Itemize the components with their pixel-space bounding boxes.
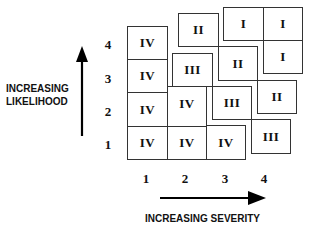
cell-s2-l2: IV [167,86,207,127]
y-tick-4: 4 [101,37,115,53]
x-tick-2: 2 [178,171,192,187]
cell-s1-l1: IV [127,126,168,160]
cell-s4-l4: I [263,7,303,41]
y-axis-label: INCREASING LIKELIHOOD [6,82,69,108]
cell-s1-l2: IV [127,92,168,127]
y-tick-2: 2 [101,104,115,120]
cell-s3-l1: IV [206,125,246,160]
x-tick-3: 3 [218,171,232,187]
x-axis-label: INCREASING SEVERITY [145,212,260,225]
x-tick-1: 1 [139,171,153,187]
cell-s1-l4: IV [127,26,168,60]
cell-s4-l1: III [251,119,291,154]
cell-s4-l2: II [257,80,297,114]
cell-s2-l4: II [178,13,219,47]
cell-s3-l3: II [218,46,258,81]
up-arrow-icon [76,46,88,136]
y-tick-1: 1 [101,137,115,153]
cell-s2-l3: III [172,53,213,87]
y-axis-label-line1: INCREASING [6,82,69,95]
cell-s3-l4: I [223,7,264,41]
y-axis-label-line2: LIKELIHOOD [6,95,69,108]
cell-s3-l2: III [212,86,252,120]
cell-s1-l3: IV [127,59,168,93]
right-arrow-icon [160,191,266,205]
cell-s2-l1: IV [167,126,207,160]
cell-s4-l3: I [263,40,303,74]
x-tick-4: 4 [257,171,271,187]
y-tick-3: 3 [101,71,115,87]
